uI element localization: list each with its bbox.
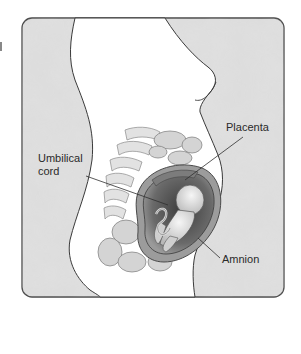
label-umbilical-cord: Umbilical cord	[38, 152, 98, 178]
label-placenta: Placenta	[226, 121, 269, 134]
anatomy-illustration: Placenta Umbilical cord Amnion	[0, 0, 301, 354]
label-amnion: Amnion	[222, 253, 259, 266]
